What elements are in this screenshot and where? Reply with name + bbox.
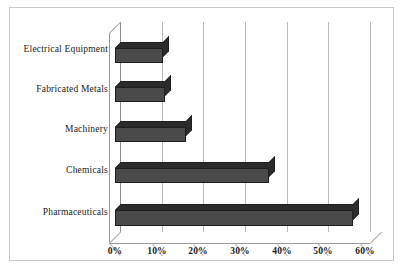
- bar-side-pharmaceuticals: [353, 198, 359, 220]
- bar-electrical-equipment[interactable]: [115, 48, 163, 63]
- bars: [0, 0, 405, 270]
- bar-fabricated-metals[interactable]: [115, 87, 165, 102]
- category-label-electrical-equipment: Electrical Equipment: [24, 44, 108, 54]
- bar-chemicals[interactable]: [115, 168, 269, 183]
- category-label-fabricated-metals: Fabricated Metals: [36, 84, 108, 94]
- bar-face-pharmaceuticals: [115, 210, 353, 226]
- bar-face-fabricated-metals: [115, 87, 165, 102]
- xtick-label-60: 60%: [345, 246, 385, 256]
- xtick-label-50: 50%: [303, 246, 343, 256]
- bar-face-electrical-equipment: [115, 48, 163, 63]
- bar-side-electrical-equipment: [163, 36, 169, 57]
- xtick-label-20: 20%: [178, 246, 218, 256]
- bar-machinery[interactable]: [115, 127, 186, 142]
- xtick-label-40: 40%: [262, 246, 302, 256]
- plot-area: Electrical Equipment Fabricated Metals M…: [0, 0, 405, 270]
- bar-pharmaceuticals[interactable]: [115, 210, 353, 226]
- bar-side-machinery: [186, 115, 192, 136]
- category-label-pharmaceuticals: Pharmaceuticals: [43, 207, 108, 217]
- xtick-label-30: 30%: [220, 246, 260, 256]
- category-label-machinery: Machinery: [65, 124, 108, 134]
- bar-side-fabricated-metals: [165, 75, 171, 96]
- bar-face-chemicals: [115, 168, 269, 183]
- xtick-label-0: 0%: [95, 246, 135, 256]
- bar-side-chemicals: [269, 156, 275, 177]
- xtick-label-10: 10%: [137, 246, 177, 256]
- bar-face-machinery: [115, 127, 186, 142]
- category-label-chemicals: Chemicals: [66, 165, 108, 175]
- chart-root: Electrical Equipment Fabricated Metals M…: [0, 0, 405, 270]
